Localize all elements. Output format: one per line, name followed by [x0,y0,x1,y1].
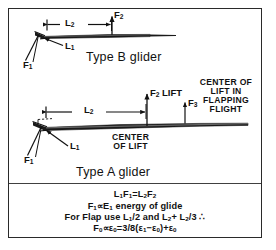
type-b-l1-leader [45,38,64,45]
type-a-wing [33,119,249,131]
type-a-l2-dimension [46,104,146,119]
formula-line-4: F0∝ε0=3/8(ε1−ε0)+ε0 [8,222,262,233]
center-of-lift-label: CENTER OF LIFT [112,133,149,151]
type-b-f2-label: F2 [114,10,124,20]
type-b-wing [35,32,177,39]
formula-line-3: For Flap use L1/2 and L2+ L2/3 ∴ [8,211,262,222]
type-a-f1-arrow [28,127,42,158]
type-b-f1-arrow [26,35,39,62]
type-b-l1-label: L1 [65,41,75,51]
center-of-lift-line-2: OF LIFT [112,142,149,151]
type-a-l1-label: L1 [70,141,80,151]
type-b-l2-label: L2 [65,18,75,28]
type-a-f2-lift-label: F2 LIFT [150,88,182,98]
type-a-l1-leader [47,131,69,147]
center-of-lift-flapping-label: CENTER OF LIFT IN FLAPPING FLIGHT [195,78,257,114]
type-a-f1-label: F1 [24,155,34,165]
type-a-title: Type A glider [76,166,150,179]
type-b-title: Type B glider [86,51,162,64]
type-b-l2-dimension [47,19,112,32]
type-b-f1-label: F1 [23,60,33,70]
col-flap-line-4: FLIGHT [195,105,257,114]
formula-line-1: L1F1=L2F2 [8,189,262,199]
formula-line-2: F1∝E1 energy of glide [8,200,262,211]
type-a-l2-label: L2 [84,105,94,115]
figure-page: F2 L2 L1 F1 Type B glider F2 LIFT F3 L2 … [0,0,276,250]
